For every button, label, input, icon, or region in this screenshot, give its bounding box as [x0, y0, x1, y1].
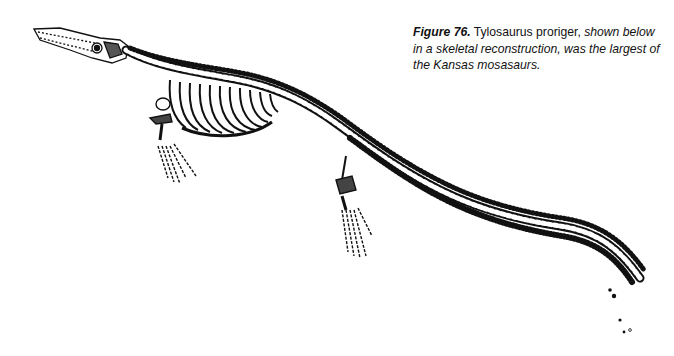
- tail-tip: [608, 288, 631, 333]
- species-name: Tylosaurus proriger,: [471, 25, 581, 39]
- figure-caption: Figure 76. Tylosaurus proriger, shown be…: [413, 24, 663, 74]
- figure-label: Figure 76.: [413, 25, 471, 39]
- skull: [34, 28, 128, 63]
- spine: [126, 48, 644, 282]
- figure: Figure 76. Tylosaurus proriger, shown be…: [0, 0, 674, 356]
- hind-flipper: [336, 156, 372, 258]
